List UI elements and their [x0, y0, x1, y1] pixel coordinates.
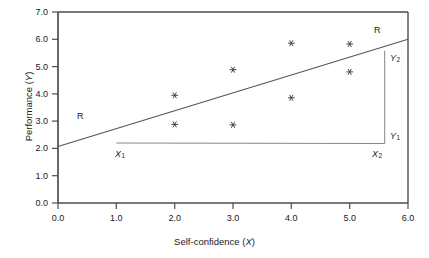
- data-point: [230, 122, 237, 128]
- x-tick-label: 2.0: [157, 213, 193, 223]
- y-tick-label: 7.0: [18, 7, 48, 17]
- y-axis-title-text: Performance (Y): [23, 72, 34, 142]
- x-tick-label: 5.0: [332, 213, 368, 223]
- x-tick-label: 6.0: [390, 213, 426, 223]
- slope-triangle: [116, 51, 384, 144]
- y-axis-title: Performance (Y): [23, 27, 34, 187]
- x-axis-title-text: Self-confidence (X): [174, 236, 255, 247]
- scatter-plot-figure: 7.0 6.0 5.0 4.0 3.0 2.0 1.0 0.0 0.0 1.0 …: [0, 0, 429, 258]
- x2-label-subscript: 2: [378, 152, 382, 159]
- data-point: [346, 69, 353, 75]
- y-tick-marks: [52, 12, 58, 203]
- data-point: [288, 40, 295, 46]
- y-tick-label: 0.0: [18, 198, 48, 208]
- y1-label: Y1: [390, 131, 400, 141]
- x-tick-marks: [58, 203, 408, 209]
- slope-run-line: [116, 143, 384, 144]
- regression-label-left: R: [77, 111, 84, 121]
- x-tick-label: 0.0: [40, 213, 76, 223]
- x-tick-label: 3.0: [215, 213, 251, 223]
- x-tick-label: 1.0: [98, 213, 134, 223]
- data-point: [346, 41, 353, 47]
- y2-label: Y2: [390, 53, 400, 63]
- x-axis-title: Self-confidence (X): [0, 236, 429, 247]
- x-tick-label: 4.0: [273, 213, 309, 223]
- x1-label-subscript: 1: [121, 152, 125, 159]
- data-point: [171, 92, 178, 98]
- plot-frame: [58, 12, 408, 203]
- data-point: [230, 67, 237, 73]
- y1-label-subscript: 1: [396, 134, 400, 141]
- regression-line: [58, 39, 408, 146]
- x1-label: X1: [115, 149, 125, 159]
- x2-label: X2: [372, 149, 382, 159]
- y2-label-subscript: 2: [396, 56, 400, 63]
- data-point: [288, 95, 295, 101]
- data-point: [171, 121, 178, 127]
- regression-label-right: R: [374, 25, 381, 35]
